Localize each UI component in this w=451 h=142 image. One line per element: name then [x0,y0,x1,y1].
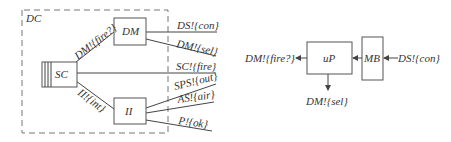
node-dm: DM [114,18,146,45]
node-up-label: uP [323,52,336,64]
node-mb: MB [362,37,383,80]
edge-label-sc-dm: DM!{fire?} [71,21,119,62]
output-left-label: DM!{fire?} [244,52,296,64]
right-diagram: uP MB DS!{con} DM!{fire?} DM!{sel} [244,37,440,107]
node-up: uP [307,42,352,74]
node-mb-label: MB [363,52,380,64]
node-sc-label: SC [55,68,69,80]
edge-label-sc-ii: II!{int} [75,85,109,114]
output-label-1: DM!{sel} [175,37,220,58]
output-label-0: DS!{con} [176,19,219,31]
node-ii: II [114,98,146,124]
diagram-canvas: DC SC DM II DM!{fire?} II!{int} [0,0,451,142]
input-label: DS!{con} [397,52,440,64]
node-sc: SC [42,62,77,87]
left-diagram: DC SC DM II DM!{fire?} II!{int} [22,10,220,133]
output-down-label: DM!{sel} [305,95,348,107]
node-ii-label: II [124,105,134,117]
output-label-5: P!{ok} [177,114,210,130]
dc-label: DC [25,12,42,24]
node-dm-label: DM [121,25,140,37]
